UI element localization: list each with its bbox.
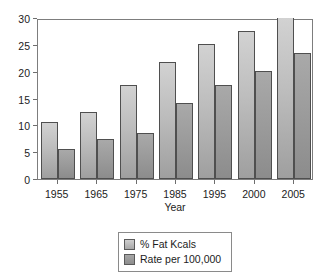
y-axis-tick: 30 — [0, 13, 37, 25]
x-axis-tick: 1985 — [155, 180, 194, 202]
bar — [41, 122, 58, 179]
y-axis-tick-label: 0 — [24, 174, 37, 186]
y-axis-tick-label: 10 — [18, 120, 37, 132]
bar — [277, 18, 294, 179]
x-axis-title: Year — [37, 201, 313, 213]
x-axis-tick: 2000 — [234, 180, 273, 202]
legend-swatch-icon — [124, 254, 135, 265]
bar — [80, 112, 97, 179]
y-axis-tick: 25 — [0, 40, 37, 52]
x-axis-tick-mark — [57, 180, 58, 184]
x-axis-tick: 1975 — [116, 180, 155, 202]
x-axis-tick-mark — [136, 180, 137, 184]
bar — [97, 139, 114, 179]
x-axis-tick-mark — [96, 180, 97, 184]
x-axis: 1955196519751985199520002005 — [37, 180, 313, 202]
x-axis-tick-mark — [214, 180, 215, 184]
x-axis-tick: 1955 — [37, 180, 76, 202]
y-axis-tick-label: 5 — [24, 147, 37, 159]
x-axis-tick: 2005 — [274, 180, 313, 202]
y-axis-tick: 0 — [0, 174, 37, 186]
y-axis-tick-label: 30 — [18, 13, 37, 25]
bar — [58, 149, 75, 179]
bar-chart-figure: 051015202530 195519651975198519952000200… — [0, 0, 328, 279]
x-axis-tick-mark — [175, 180, 176, 184]
bar — [137, 133, 154, 179]
y-axis-tick: 15 — [0, 94, 37, 106]
y-axis-tick: 10 — [0, 120, 37, 132]
x-axis-tick: 1965 — [76, 180, 115, 202]
bar — [198, 44, 215, 179]
legend-item-label: Rate per 100,000 — [140, 253, 221, 265]
legend-item-label: % Fat Kcals — [140, 238, 196, 250]
x-axis-tick-mark — [293, 180, 294, 184]
bar — [176, 103, 193, 179]
bars-container — [38, 20, 312, 179]
bar — [120, 85, 137, 179]
y-axis-tick: 5 — [0, 147, 37, 159]
bar — [238, 31, 255, 179]
x-axis-tick: 1995 — [195, 180, 234, 202]
legend-swatch-icon — [124, 239, 135, 250]
y-axis-tick: 20 — [0, 67, 37, 79]
bar — [255, 71, 272, 179]
y-axis-tick-label: 25 — [18, 40, 37, 52]
legend-item: Rate per 100,000 — [124, 252, 226, 266]
plot-area — [37, 19, 313, 180]
chart-legend: % Fat KcalsRate per 100,000 — [118, 232, 232, 272]
legend-item: % Fat Kcals — [124, 237, 226, 251]
bar — [294, 53, 311, 179]
bar — [215, 85, 232, 179]
y-axis-tick-label: 15 — [18, 94, 37, 106]
bar — [159, 62, 176, 179]
y-axis: 051015202530 — [0, 19, 37, 180]
x-axis-tick-mark — [254, 180, 255, 184]
y-axis-tick-label: 20 — [18, 67, 37, 79]
